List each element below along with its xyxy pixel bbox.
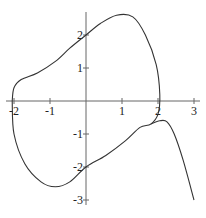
- curves: [12, 14, 194, 200]
- x-tick-label: 3: [191, 104, 197, 118]
- x-tick-label: 2: [155, 104, 161, 118]
- y-tick-label: -2: [73, 160, 83, 174]
- curve-line: [151, 120, 194, 200]
- y-ticks: 21-1-2-3: [73, 28, 89, 207]
- y-tick-label: 1: [77, 61, 83, 75]
- y-tick-label: -1: [73, 127, 83, 141]
- y-tick-label: -3: [73, 193, 83, 207]
- x-tick-label: 1: [119, 104, 125, 118]
- x-tick-label: -1: [45, 104, 55, 118]
- plot-canvas: -2-1123 21-1-2-3: [0, 0, 206, 218]
- x-axis: -2-1123: [6, 98, 200, 118]
- x-tick-label: -2: [9, 104, 19, 118]
